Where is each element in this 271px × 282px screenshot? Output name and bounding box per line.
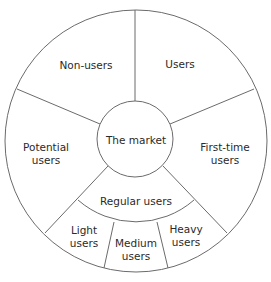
label-first-time-users-line1: First-time xyxy=(200,141,250,154)
label-first-time-users-line2: users xyxy=(200,154,250,167)
divider-light-medium xyxy=(104,222,114,268)
label-the-market: The market xyxy=(106,134,166,147)
label-heavy-users-line1: Heavy xyxy=(169,223,202,236)
divider-nonusers-potential xyxy=(17,89,100,124)
label-light-users-line1: Light xyxy=(70,224,98,237)
divider-potential-regular xyxy=(45,166,108,233)
divider-users-firsttime xyxy=(170,89,254,124)
label-first-time-users: First-time users xyxy=(200,141,250,167)
label-regular-users: Regular users xyxy=(100,195,172,208)
label-potential-users: Potential users xyxy=(23,141,69,167)
label-users: Users xyxy=(165,58,194,71)
label-medium-users-line2: users xyxy=(115,250,157,263)
label-light-users-line2: users xyxy=(70,237,98,250)
divider-medium-heavy xyxy=(157,222,168,268)
label-non-users: Non-users xyxy=(59,59,112,72)
label-potential-users-line1: Potential xyxy=(23,141,69,154)
label-medium-users: Medium users xyxy=(115,237,157,263)
label-heavy-users-line2: users xyxy=(169,236,202,249)
label-potential-users-line2: users xyxy=(23,154,69,167)
label-medium-users-line1: Medium xyxy=(115,237,157,250)
label-heavy-users: Heavy users xyxy=(169,223,202,249)
label-light-users: Light users xyxy=(70,224,98,250)
